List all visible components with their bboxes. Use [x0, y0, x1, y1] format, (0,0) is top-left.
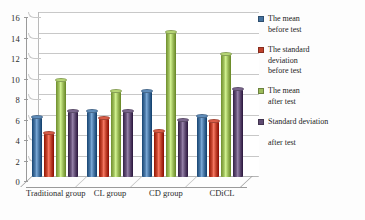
bar-3-4: [178, 120, 188, 177]
bar-body: [68, 111, 78, 177]
bar-chart: 16 14 12 10 8 6 4 2 0 Traditional group …: [0, 0, 365, 220]
bar-top-cap: [208, 119, 220, 123]
bar-body: [56, 80, 66, 177]
bar-3-1: [142, 91, 152, 177]
bar-2-2: [99, 118, 109, 177]
bar-top-cap: [31, 115, 43, 119]
x-label-text: CL group: [94, 188, 127, 198]
x-axis-labels: Traditional group CL group CD group CDiC…: [26, 188, 266, 218]
bar-top-cap: [43, 131, 55, 135]
x-label-text: Traditional group: [26, 188, 85, 198]
bar-1-2: [44, 133, 54, 177]
bar-body: [166, 32, 176, 177]
legend-label: Standard deviation after test: [268, 117, 328, 149]
bar-top-cap: [153, 129, 165, 133]
y-tick-label-0: 0: [16, 177, 20, 187]
bar-body: [233, 89, 243, 177]
legend-swatch-blue: [258, 16, 264, 22]
bar-top-cap: [220, 52, 232, 56]
legend-item-sd-after-test[interactable]: Standard deviation after test: [258, 117, 328, 149]
bar-body: [87, 111, 97, 177]
legend-item-mean-before-test[interactable]: The mean before test: [258, 14, 302, 35]
legend-swatch-green: [258, 88, 264, 94]
bar-body: [32, 117, 42, 177]
chart-legend: The mean before test The standard deviat…: [258, 14, 364, 154]
y-tick-label-6: 6: [16, 116, 20, 126]
bar-top-cap: [110, 89, 122, 93]
x-label-cd-group: CD group: [138, 188, 194, 198]
bar-body: [209, 121, 219, 177]
bar-top-cap: [196, 114, 208, 118]
bar-3-2: [154, 131, 164, 177]
bar-body: [197, 116, 207, 178]
y-tick-label-10: 10: [11, 75, 20, 85]
bar-body: [142, 91, 152, 177]
legend-item-mean-after-test[interactable]: The mean after test: [258, 86, 300, 107]
bar-1-3: [56, 80, 66, 177]
bar-4-2: [209, 121, 219, 177]
bar-4-4: [233, 89, 243, 177]
bar-body: [178, 120, 188, 177]
bar-1-1: [32, 117, 42, 177]
bar-1-4: [68, 111, 78, 177]
bar-top-cap: [55, 78, 67, 82]
y-tick-label-16: 16: [11, 13, 20, 23]
bar-2-4: [123, 111, 133, 177]
bars-layer: [26, 8, 258, 188]
y-tick-label-8: 8: [16, 95, 20, 105]
legend-label: The mean before test: [268, 14, 302, 35]
legend-item-sd-before-test[interactable]: The standard deviation before test: [258, 45, 310, 77]
bar-4-3: [221, 54, 231, 177]
y-tick-label-12: 12: [11, 54, 20, 64]
plot-area: 16 14 12 10 8 6 4 2 0: [26, 8, 258, 184]
x-label-traditional-group: Traditional group: [26, 188, 82, 198]
bar-body: [99, 118, 109, 177]
y-tick-label-4: 4: [16, 136, 20, 146]
legend-swatch-purple: [258, 119, 264, 125]
bar-top-cap: [141, 89, 153, 93]
bar-2-3: [111, 91, 121, 177]
bar-2-1: [87, 111, 97, 177]
y-tick-label-14: 14: [11, 34, 20, 44]
bar-body: [111, 91, 121, 177]
legend-label: The standard deviation before test: [268, 45, 310, 77]
x-label-text: CD group: [149, 188, 183, 198]
bar-3-3: [166, 32, 176, 177]
x-label-cdicl: CDiCL: [194, 188, 250, 198]
bar-body: [44, 133, 54, 177]
bar-body: [154, 131, 164, 177]
x-label-cl-group: CL group: [82, 188, 138, 198]
bar-top-cap: [232, 87, 244, 91]
bar-body: [221, 54, 231, 177]
bar-top-cap: [177, 118, 189, 122]
bar-4-1: [197, 116, 207, 178]
legend-label: The mean after test: [268, 86, 300, 107]
y-tick-label-2: 2: [16, 157, 20, 167]
legend-swatch-red: [258, 47, 264, 53]
bar-body: [123, 111, 133, 177]
x-label-text: CDiCL: [209, 188, 234, 198]
bar-top-cap: [98, 116, 110, 120]
